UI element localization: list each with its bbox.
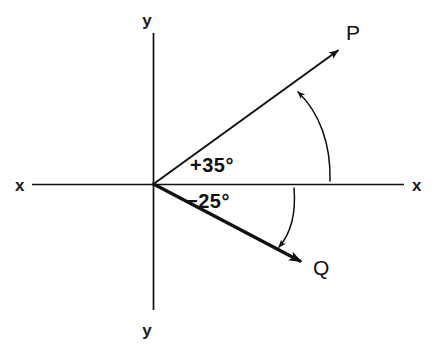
y-axis-label-bottom: y — [142, 321, 152, 340]
ray-p-label: P — [346, 21, 360, 44]
x-axis-label-right: x — [412, 176, 422, 195]
x-axis-label-left: x — [15, 176, 25, 195]
angle-arc-positive — [298, 92, 330, 181]
ray-p-line — [154, 51, 339, 185]
ray-q-group: Q — [154, 184, 330, 279]
angle-arc-negative — [279, 188, 294, 247]
diagram-canvas: x x y y P Q +35° −25° — [0, 0, 442, 345]
angle-label-negative: −25° — [186, 190, 230, 212]
angle-arc-negative-group: −25° — [186, 188, 294, 247]
ray-q-label: Q — [313, 256, 329, 279]
y-axis-label-top: y — [142, 11, 152, 30]
angle-label-positive: +35° — [190, 154, 234, 176]
angle-diagram-figure: x x y y P Q +35° −25° — [0, 0, 442, 345]
angle-arc-positive-group: +35° — [190, 92, 330, 181]
